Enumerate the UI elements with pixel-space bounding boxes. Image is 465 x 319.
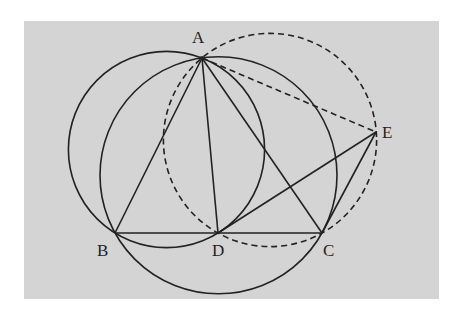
label-e: E bbox=[382, 123, 392, 142]
label-b: B bbox=[97, 241, 108, 260]
figure-panel bbox=[24, 21, 439, 299]
label-d: D bbox=[212, 241, 224, 260]
point-a-dot bbox=[200, 56, 204, 60]
label-a: A bbox=[192, 28, 205, 47]
label-c: C bbox=[323, 241, 334, 260]
geometry-figure: A B D C E bbox=[0, 0, 465, 319]
